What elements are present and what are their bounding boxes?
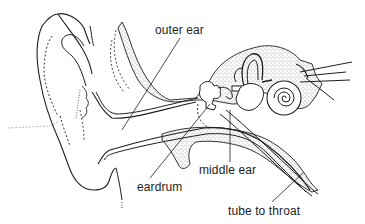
label-middle-ear: middle ear — [199, 164, 256, 176]
ear-canal — [92, 92, 196, 118]
ossicles — [199, 82, 220, 111]
label-eardrum: eardrum — [137, 181, 182, 193]
label-outer-ear: outer ear — [155, 24, 204, 36]
cochlea — [267, 81, 301, 115]
ear-diagram: outer ear eardrum middle ear tube to thr… — [0, 0, 365, 224]
label-tube-to-throat: tube to throat — [228, 205, 300, 217]
